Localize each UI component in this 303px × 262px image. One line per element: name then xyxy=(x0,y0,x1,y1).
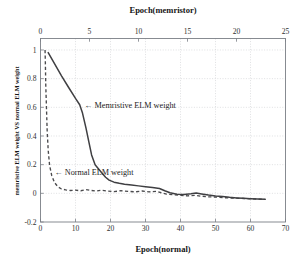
top-tick-label-5: 5 xyxy=(88,27,92,36)
y-tick-label-1: 1 xyxy=(33,46,37,55)
bottom-axis-title: Epoch(normal) xyxy=(135,244,190,254)
top-tick-label-20: 20 xyxy=(233,27,241,36)
bottom-tick-label-40: 40 xyxy=(177,224,185,233)
y-tick-label-neg0p2: -0.2 xyxy=(24,218,36,227)
top-tick-label-0: 0 xyxy=(39,27,43,36)
y-tick-label-0p2: 0.2 xyxy=(27,160,37,169)
y-axis-title: memristive ELM weight VS normal ELM weig… xyxy=(13,66,20,196)
chart-svg: 0510152025 010203040506070 10.80.60.40.2… xyxy=(0,0,303,262)
bottom-tick-label-60: 60 xyxy=(247,224,255,233)
y-tick-label-0: 0 xyxy=(33,189,37,198)
chart-background xyxy=(0,0,303,262)
bottom-tick-label-50: 50 xyxy=(212,224,220,233)
y-tick-label-0p8: 0.8 xyxy=(27,74,37,83)
bottom-tick-label-30: 30 xyxy=(142,224,150,233)
top-tick-label-25: 25 xyxy=(282,27,290,36)
top-axis-title: Epoch(memristor) xyxy=(129,5,196,15)
y-tick-label-0p6: 0.6 xyxy=(27,103,37,112)
bottom-tick-label-70: 70 xyxy=(282,224,290,233)
bottom-tick-label-20: 20 xyxy=(107,224,115,233)
bottom-tick-label-0: 0 xyxy=(39,224,43,233)
bottom-tick-label-10: 10 xyxy=(72,224,80,233)
chart-figure: 0510152025 010203040506070 10.80.60.40.2… xyxy=(0,0,303,262)
top-tick-label-10: 10 xyxy=(135,27,143,36)
y-tick-label-0p4: 0.4 xyxy=(27,132,37,141)
memristive-annotation: ← Memristive ELM weight xyxy=(84,101,176,110)
normal-annotation: ← Normal ELM weight xyxy=(55,168,135,177)
top-tick-label-15: 15 xyxy=(184,27,192,36)
